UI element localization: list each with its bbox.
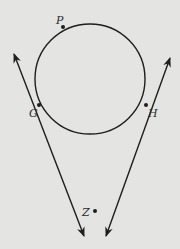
diagram-canvas: P G H Z: [0, 0, 180, 249]
label-z: Z: [81, 206, 90, 219]
label-g: G: [29, 107, 38, 120]
circle: [35, 24, 145, 134]
point-z-dot: [93, 209, 97, 213]
tangent-line-h: [106, 58, 170, 236]
tangent-line-g: [14, 54, 84, 236]
label-h: H: [147, 107, 158, 120]
geometry-diagram: P G H Z: [0, 0, 180, 249]
label-p: P: [55, 14, 64, 27]
